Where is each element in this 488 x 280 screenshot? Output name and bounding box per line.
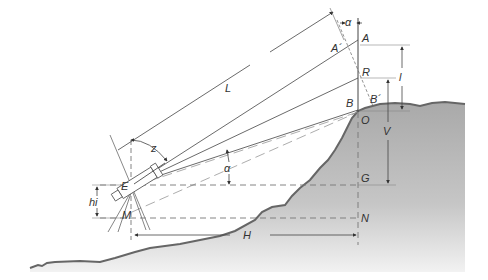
label-L: L [225,82,231,94]
diagram: α z α hi H l V A A´ R B B´ O G N [0,0,488,280]
label-hi: hi [89,196,98,208]
L-dimension-line [118,65,250,150]
label-B: B [346,97,353,109]
label-B-prime: B´ [370,93,381,105]
alpha-mid-arrow-up [227,150,229,162]
label-E: E [121,180,129,192]
L-dimension-line-2 [270,12,333,52]
label-l: l [399,71,402,83]
label-alpha-mid: α [224,162,231,174]
label-O: O [361,114,370,126]
label-alpha-top: α [345,16,352,28]
label-z: z [150,142,157,154]
tacheometry-diagram: α z α hi H l V A A´ R B B´ O G N [0,0,488,280]
label-A-prime: A´ [330,42,342,54]
label-R: R [362,66,370,78]
label-H: H [243,229,251,241]
label-A: A [361,32,369,44]
label-M: M [122,209,132,221]
terrain [30,102,465,272]
zenith-angle-arc [131,140,167,161]
L-extension-top [330,8,344,40]
tripod-leg-3 [132,190,146,230]
label-N: N [361,212,369,224]
label-G: G [361,172,370,184]
